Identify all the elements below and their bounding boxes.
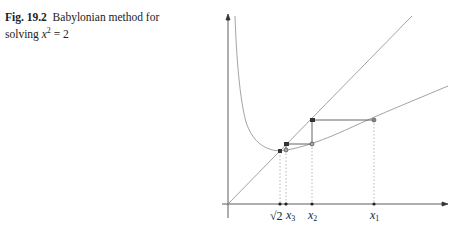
label-x1: x1 [369,208,379,223]
label-x3: x3 [285,208,295,223]
label-x2: x2 [307,208,317,223]
axes [222,14,448,218]
babylonian-curve [235,16,448,151]
y-axis-arrow-icon [226,14,230,20]
identity-line [228,16,412,204]
cobweb [286,120,374,150]
x-axis-arrow-icon [442,202,448,206]
drop-lines [280,120,374,204]
babylonian-diagram: √2 x3 x2 x1 [0,0,471,236]
label-sqrt2: √2 [270,209,283,223]
